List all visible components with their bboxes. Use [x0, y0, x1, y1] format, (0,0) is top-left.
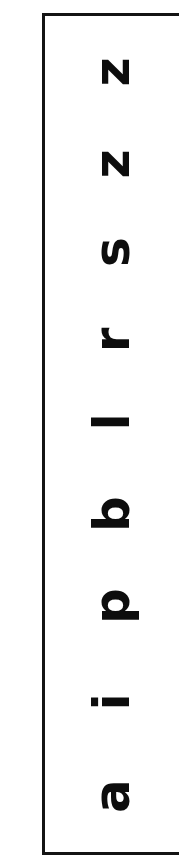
- letter-r: r: [84, 317, 140, 363]
- letter-b: b: [84, 491, 140, 537]
- letter-l: l: [84, 399, 140, 445]
- letter-s: s: [84, 229, 140, 275]
- worksheet-page: handwriting Lesson One: zzsrlbpia: [0, 0, 179, 862]
- letter-z-1: z: [84, 49, 140, 95]
- letter-p: p: [84, 583, 140, 629]
- letter-column: zzsrlbpia: [45, 16, 179, 852]
- letter-practice-box: zzsrlbpia: [42, 13, 179, 855]
- letter-z-2: z: [84, 141, 140, 187]
- letter-a: a: [84, 773, 140, 819]
- lesson-label: Lesson One:: [0, 769, 2, 854]
- lesson-label-container: Lesson One:: [2, 0, 38, 862]
- letter-i: i: [84, 679, 140, 725]
